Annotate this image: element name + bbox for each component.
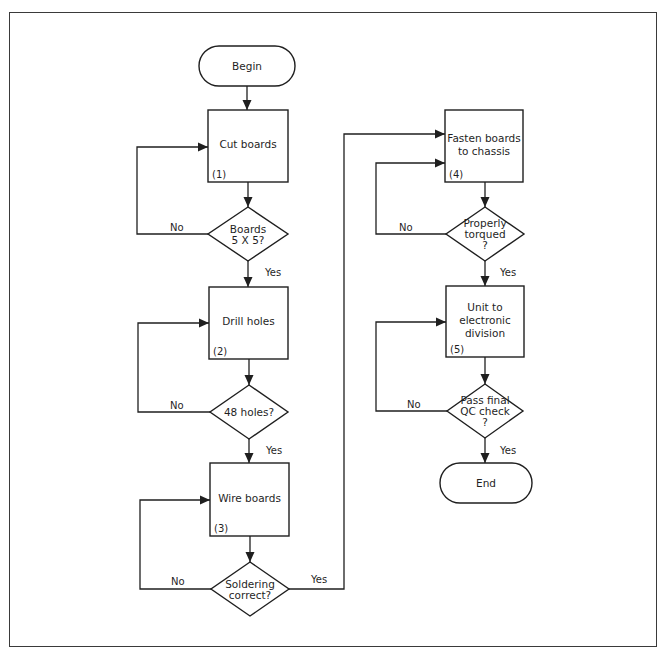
node-wire: Wire boards(3) xyxy=(210,463,289,536)
edge-label-yes: Yes xyxy=(499,267,516,278)
edge-label-yes: Yes xyxy=(265,445,282,456)
node-dec5: Pass finalQC check? xyxy=(447,384,523,438)
connector-line xyxy=(289,134,445,589)
node-label: 48 holes? xyxy=(224,406,274,418)
connector-fasten-to-dec4 xyxy=(481,182,490,207)
step-number: (4) xyxy=(449,169,463,180)
node-label: Unit to xyxy=(467,301,502,313)
arrowhead-icon xyxy=(245,375,254,385)
arrowhead-icon xyxy=(245,453,254,463)
node-fasten: Fasten boardsto chassis(4) xyxy=(445,110,523,182)
connector-wire-to-dec3 xyxy=(246,536,255,562)
node-begin: Begin xyxy=(199,46,295,86)
connector-cut-to-dec1 xyxy=(244,182,253,207)
arrowhead-icon xyxy=(435,130,445,139)
arrowhead-icon xyxy=(198,143,208,152)
node-label: electronic xyxy=(459,314,511,326)
connector-dec3-to-wire xyxy=(140,496,211,590)
connector-line xyxy=(376,322,447,411)
edge-label-no: No xyxy=(399,222,413,233)
step-number: (2) xyxy=(213,346,227,357)
node-label: ? xyxy=(482,239,488,251)
connector-drill-to-dec2 xyxy=(245,359,254,385)
node-unit: Unit toelectronicdivision(5) xyxy=(446,286,524,357)
step-number: (1) xyxy=(212,169,226,180)
arrowhead-icon xyxy=(243,100,252,110)
node-label: correct? xyxy=(229,589,271,601)
connectors xyxy=(137,86,490,589)
node-dec1: Boards5 X 5? xyxy=(208,207,288,261)
connector-dec4-to-unit xyxy=(481,261,490,286)
arrowhead-icon xyxy=(435,159,445,168)
node-label: division xyxy=(465,327,505,339)
node-label: End xyxy=(476,477,496,489)
step-number: (5) xyxy=(450,344,464,355)
step-number: (3) xyxy=(214,523,228,534)
node-label: 5 X 5? xyxy=(232,234,265,246)
edge-label-yes: Yes xyxy=(264,267,281,278)
arrowhead-icon xyxy=(244,197,253,207)
arrowhead-icon xyxy=(481,374,490,384)
connector-dec1-to-drill xyxy=(244,261,253,287)
edge-label-yes: Yes xyxy=(310,574,327,585)
node-label: Fasten boards xyxy=(447,132,520,144)
node-drill: Drill holes(2) xyxy=(209,287,288,359)
node-label: Drill holes xyxy=(222,315,274,327)
edge-label-no: No xyxy=(407,399,421,410)
connector-dec1-to-cut xyxy=(137,143,208,235)
arrowhead-icon xyxy=(436,318,446,327)
node-label: Wire boards xyxy=(218,492,281,504)
flowchart-nodes: BeginCut boards(1)Boards5 X 5?Drill hole… xyxy=(199,46,532,616)
connector-dec3-to-fasten xyxy=(289,130,445,590)
node-label: to chassis xyxy=(458,145,510,157)
connector-begin-to-cut xyxy=(243,86,252,110)
node-dec4: Properlytorqued? xyxy=(446,207,524,261)
connector-dec2-to-wire xyxy=(245,439,254,463)
arrowhead-icon xyxy=(481,197,490,207)
node-end: End xyxy=(440,463,532,503)
arrowhead-icon xyxy=(481,453,490,463)
arrowhead-icon xyxy=(481,276,490,286)
node-label: ? xyxy=(482,416,488,428)
arrowhead-icon xyxy=(199,319,209,328)
connector-line xyxy=(138,323,210,412)
node-cut: Cut boards(1) xyxy=(208,110,288,182)
connector-dec2-to-drill xyxy=(138,319,210,413)
edge-label-no: No xyxy=(170,222,184,233)
node-label: Cut boards xyxy=(219,138,276,150)
arrowhead-icon xyxy=(244,277,253,287)
flowchart: BeginCut boards(1)Boards5 X 5?Drill hole… xyxy=(0,0,667,656)
connector-dec5-to-unit xyxy=(376,318,447,412)
connector-unit-to-dec5 xyxy=(481,357,490,384)
node-label: Begin xyxy=(232,60,262,72)
edge-label-yes: Yes xyxy=(499,445,516,456)
arrowhead-icon xyxy=(200,496,210,505)
arrowhead-icon xyxy=(246,552,255,562)
node-dec2: 48 holes? xyxy=(210,385,288,439)
connector-dec5-to-end xyxy=(481,438,490,463)
edge-label-no: No xyxy=(170,400,184,411)
node-dec3: Solderingcorrect? xyxy=(211,562,289,616)
connector-line xyxy=(137,147,208,234)
edge-label-no: No xyxy=(171,576,185,587)
